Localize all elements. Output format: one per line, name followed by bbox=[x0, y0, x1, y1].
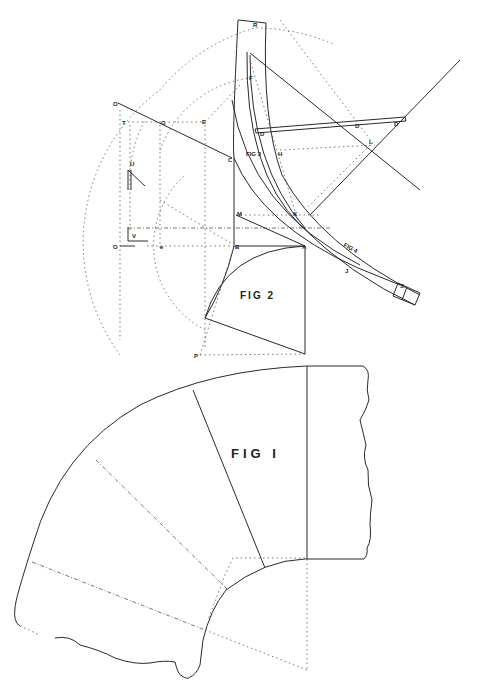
construction-diagram bbox=[83, 20, 460, 355]
fig2-label: FIG 2 bbox=[240, 290, 275, 301]
label-D2: D bbox=[355, 123, 360, 129]
label-O-top: O bbox=[113, 101, 118, 107]
fig3-label: FIG 3 bbox=[246, 151, 262, 157]
label-B: B bbox=[235, 244, 240, 250]
label-T: T bbox=[122, 120, 126, 126]
fig1-label: FIG I bbox=[231, 446, 280, 461]
label-F: F bbox=[249, 75, 253, 81]
label-C: C bbox=[228, 157, 233, 163]
fig1-elbow bbox=[15, 366, 372, 678]
label-R: R bbox=[253, 22, 258, 28]
label-L: L bbox=[369, 139, 373, 145]
label-O-left: O bbox=[113, 244, 118, 250]
label-H: H bbox=[278, 151, 282, 157]
label-S: S bbox=[400, 283, 404, 289]
label-K: K bbox=[293, 211, 298, 217]
label-A: A bbox=[302, 244, 307, 250]
label-U: U bbox=[130, 161, 134, 167]
label-J: J bbox=[345, 268, 348, 274]
label-M: M bbox=[237, 211, 242, 217]
point-labels: R F O T G E C H U V O e M B A K J L P D … bbox=[113, 22, 404, 359]
label-D3: D bbox=[394, 121, 399, 127]
label-D1: D bbox=[260, 131, 265, 137]
label-G: G bbox=[161, 120, 166, 126]
technical-drawing: R F O T G E C H U V O e M B A K J L P D … bbox=[0, 0, 481, 697]
label-E: E bbox=[202, 119, 206, 125]
label-P: P bbox=[194, 353, 198, 359]
label-V: V bbox=[132, 233, 136, 239]
label-e: e bbox=[160, 244, 164, 250]
